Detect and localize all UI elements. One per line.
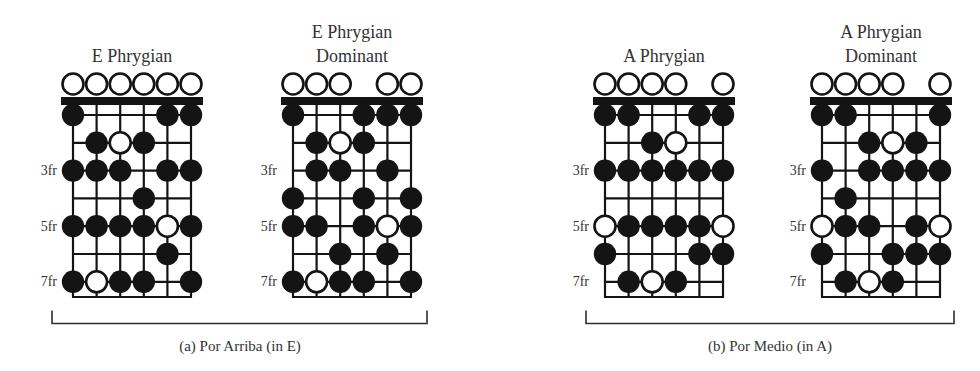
note-dot bbox=[376, 159, 398, 181]
root-note-dot bbox=[859, 271, 880, 292]
fret-label-7fr-e-phrygian: 7fr bbox=[0, 273, 57, 290]
figure-canvas: E Phrygian E Phrygian Dominant A Phrygia… bbox=[0, 0, 980, 371]
note-dot bbox=[133, 187, 155, 209]
open-string-circle bbox=[618, 74, 639, 95]
root-note-dot bbox=[110, 132, 131, 153]
note-dot bbox=[282, 271, 304, 293]
fret-label-7fr-a-phrygian: 7fr bbox=[529, 273, 589, 290]
root-note-dot bbox=[377, 216, 398, 237]
open-string-circle bbox=[133, 74, 154, 95]
root-note-dot bbox=[642, 271, 663, 292]
note-dot bbox=[109, 215, 131, 237]
fret-label-7fr-e-phrygian-dominant: 7fr bbox=[217, 273, 277, 290]
note-dot bbox=[641, 215, 663, 237]
note-dot bbox=[617, 271, 639, 293]
open-string-circle bbox=[377, 74, 398, 95]
nut-bar bbox=[61, 97, 203, 105]
note-dot bbox=[62, 159, 84, 181]
root-note-dot bbox=[882, 132, 903, 153]
note-dot bbox=[282, 215, 304, 237]
note-dot bbox=[665, 215, 687, 237]
note-dot bbox=[834, 215, 856, 237]
title-line: Dominant bbox=[801, 44, 961, 68]
title-line: E Phrygian bbox=[52, 44, 212, 68]
note-dot bbox=[712, 159, 734, 181]
note-dot bbox=[905, 243, 927, 265]
open-string-circle bbox=[713, 74, 734, 95]
note-dot bbox=[834, 271, 856, 293]
note-dot bbox=[688, 159, 710, 181]
note-dot bbox=[882, 159, 904, 181]
note-dot bbox=[329, 243, 351, 265]
note-dot bbox=[282, 104, 304, 126]
nut-bar bbox=[810, 97, 952, 105]
note-dot bbox=[329, 271, 351, 293]
note-dot bbox=[400, 215, 422, 237]
note-dot bbox=[305, 159, 327, 181]
title-line: A Phrygian bbox=[584, 44, 744, 68]
note-dot bbox=[712, 104, 734, 126]
note-dot bbox=[929, 243, 951, 265]
open-string-circle bbox=[812, 74, 833, 95]
group-caption-a: (a) Por Arriba (in E) bbox=[179, 338, 301, 355]
note-dot bbox=[688, 104, 710, 126]
open-string-circle bbox=[63, 74, 84, 95]
note-dot bbox=[617, 104, 639, 126]
root-note-dot bbox=[86, 271, 107, 292]
open-string-circle bbox=[835, 74, 856, 95]
note-dot bbox=[641, 132, 663, 154]
note-dot bbox=[305, 215, 327, 237]
open-string-circle bbox=[665, 74, 686, 95]
note-dot bbox=[305, 132, 327, 154]
note-dot bbox=[353, 187, 375, 209]
note-dot bbox=[133, 215, 155, 237]
title-line: A Phrygian bbox=[801, 20, 961, 44]
note-dot bbox=[400, 104, 422, 126]
note-dot bbox=[665, 159, 687, 181]
group-bracket-a bbox=[52, 311, 427, 324]
note-dot bbox=[811, 243, 833, 265]
note-dot bbox=[665, 271, 687, 293]
note-dot bbox=[353, 215, 375, 237]
note-dot bbox=[688, 215, 710, 237]
note-dot bbox=[712, 243, 734, 265]
note-dot bbox=[882, 271, 904, 293]
note-dot bbox=[376, 104, 398, 126]
note-dot bbox=[834, 187, 856, 209]
open-string-circle bbox=[859, 74, 880, 95]
note-dot bbox=[329, 159, 351, 181]
fret-label-5fr-a-phrygian-dominant: 5fr bbox=[746, 218, 806, 235]
root-note-dot bbox=[595, 216, 616, 237]
note-dot bbox=[929, 104, 951, 126]
open-string-circle bbox=[401, 74, 422, 95]
note-dot bbox=[929, 159, 951, 181]
open-string-circle bbox=[86, 74, 107, 95]
root-note-dot bbox=[306, 271, 327, 292]
diagram-title-a-phrygian-dominant: A Phrygian Dominant bbox=[801, 20, 961, 68]
root-note-dot bbox=[330, 132, 351, 153]
root-note-dot bbox=[713, 216, 734, 237]
note-dot bbox=[133, 271, 155, 293]
note-dot bbox=[858, 215, 880, 237]
note-dot bbox=[400, 187, 422, 209]
note-dot bbox=[594, 104, 616, 126]
note-dot bbox=[109, 271, 131, 293]
note-dot bbox=[594, 243, 616, 265]
fret-label-3fr-a-phrygian: 3fr bbox=[529, 162, 589, 179]
note-dot bbox=[811, 104, 833, 126]
group-caption-b: (b) Por Medio (in A) bbox=[708, 338, 832, 355]
open-string-circle bbox=[306, 74, 327, 95]
note-dot bbox=[156, 104, 178, 126]
note-dot bbox=[85, 215, 107, 237]
note-dot bbox=[882, 243, 904, 265]
note-dot bbox=[109, 159, 131, 181]
root-note-dot bbox=[812, 216, 833, 237]
note-dot bbox=[594, 159, 616, 181]
fret-label-3fr-e-phrygian-dominant: 3fr bbox=[217, 162, 277, 179]
note-dot bbox=[353, 132, 375, 154]
title-line: Dominant bbox=[272, 44, 432, 68]
root-note-dot bbox=[665, 132, 686, 153]
note-dot bbox=[905, 159, 927, 181]
diagram-title-e-phrygian-dominant: E Phrygian Dominant bbox=[272, 20, 432, 68]
open-string-circle bbox=[930, 74, 951, 95]
